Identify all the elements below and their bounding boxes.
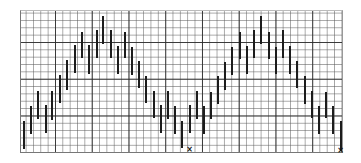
- range-bar: [203, 106, 205, 134]
- range-bar: [45, 105, 47, 133]
- range-bar: [268, 32, 270, 59]
- range-bar: [30, 106, 32, 134]
- range-bar: [231, 47, 233, 76]
- range-bar: [138, 61, 140, 88]
- range-bar: [253, 30, 255, 58]
- range-bar: [196, 91, 198, 119]
- range-bar: [37, 91, 39, 119]
- range-bar: [181, 121, 183, 148]
- range-bar: [81, 32, 83, 58]
- range-bar: [224, 62, 226, 90]
- range-bar: [210, 92, 212, 118]
- range-bar: [153, 91, 155, 118]
- range-bar: [275, 47, 277, 74]
- x-marker-icon: ×: [186, 146, 193, 154]
- range-bar: [260, 16, 262, 44]
- range-bar: [160, 105, 162, 133]
- range-bar: [59, 75, 61, 103]
- x-marker-icon: ×: [337, 147, 344, 155]
- range-bar: [88, 45, 90, 74]
- range-bar: [189, 105, 191, 133]
- range-bar: [66, 60, 68, 90]
- range-bar: [51, 91, 53, 120]
- range-bar: [110, 30, 112, 58]
- range-bar: [167, 91, 169, 119]
- range-bar: [131, 47, 133, 76]
- range-bar: [124, 32, 126, 58]
- range-bar: [217, 76, 219, 104]
- chart: ××: [0, 0, 361, 163]
- range-bar: [174, 106, 176, 134]
- range-bar: [74, 45, 76, 73]
- range-bar: [325, 92, 327, 118]
- range-bar: [282, 30, 284, 58]
- plot-area-grid: ××: [20, 10, 343, 153]
- range-bar: [23, 121, 25, 149]
- range-bar: [96, 30, 98, 58]
- range-bar: [117, 46, 119, 74]
- range-bar: [102, 16, 104, 44]
- range-bar: [239, 32, 241, 59]
- range-bar: [318, 106, 320, 134]
- range-bar: [145, 76, 147, 103]
- range-bar: [332, 106, 334, 134]
- range-bar: [311, 91, 313, 118]
- range-bar: [304, 76, 306, 104]
- range-bar: [296, 61, 298, 88]
- range-bar: [289, 46, 291, 74]
- range-bar: [246, 46, 248, 74]
